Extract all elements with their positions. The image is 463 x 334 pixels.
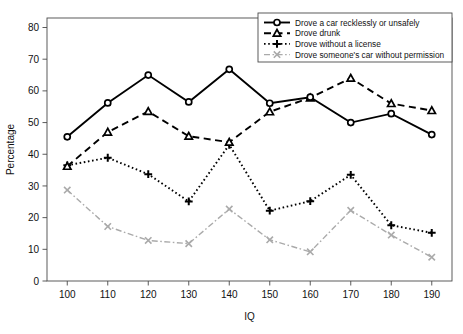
marker-circle xyxy=(429,132,435,138)
x-tick-label: 190 xyxy=(423,289,440,300)
marker-cross xyxy=(388,232,394,238)
marker-cross xyxy=(348,207,354,213)
y-tick-label: 80 xyxy=(28,22,40,33)
marker-circle xyxy=(307,94,313,100)
marker-plus xyxy=(104,154,112,162)
marker-plus xyxy=(185,198,193,206)
series-line xyxy=(67,145,432,233)
series-circle xyxy=(64,66,435,139)
y-tick-label: 40 xyxy=(28,149,40,160)
x-tick-label: 110 xyxy=(100,289,116,300)
x-axis-title: IQ xyxy=(244,311,255,322)
x-tick-label: 170 xyxy=(342,289,359,300)
marker-circle xyxy=(145,72,151,78)
marker-triangle xyxy=(145,108,152,115)
marker-triangle xyxy=(104,128,111,135)
series-line xyxy=(67,190,432,257)
legend-label: Drove a car recklessly or unsafely xyxy=(295,18,420,28)
marker-cross xyxy=(429,254,435,260)
marker-circle xyxy=(274,20,280,26)
x-tick-label: 100 xyxy=(59,289,76,300)
x-tick-label: 150 xyxy=(261,289,278,300)
chart-figure: 0102030405060708010011012013014015016017… xyxy=(0,0,463,334)
marker-circle xyxy=(226,66,232,72)
series-line xyxy=(67,78,432,166)
marker-circle xyxy=(388,111,394,117)
marker-triangle xyxy=(266,108,273,115)
marker-plus xyxy=(428,229,436,237)
marker-plus xyxy=(306,197,314,205)
marker-plus xyxy=(387,221,395,229)
marker-triangle xyxy=(185,132,192,139)
marker-cross xyxy=(64,187,70,193)
y-tick-label: 0 xyxy=(33,276,39,287)
line-chart: 0102030405060708010011012013014015016017… xyxy=(0,0,463,334)
y-tick-label: 60 xyxy=(28,85,40,96)
y-axis-title: Percentage xyxy=(5,123,16,175)
y-tick-label: 20 xyxy=(28,212,40,223)
marker-cross xyxy=(145,237,151,243)
marker-plus xyxy=(266,207,274,215)
marker-cross xyxy=(105,223,111,229)
x-tick-label: 140 xyxy=(221,289,238,300)
legend-label: Drove without a license xyxy=(295,39,381,49)
x-tick-label: 130 xyxy=(180,289,197,300)
series-cross xyxy=(64,187,435,261)
marker-circle xyxy=(105,100,111,106)
x-tick-label: 120 xyxy=(140,289,157,300)
legend-label: Drove drunk xyxy=(295,28,341,38)
x-tick-label: 180 xyxy=(383,289,400,300)
marker-circle xyxy=(267,100,273,106)
y-tick-label: 10 xyxy=(28,244,40,255)
legend: Drove a car recklessly or unsafelyDrove … xyxy=(258,13,452,62)
marker-cross xyxy=(226,206,232,212)
y-tick-label: 50 xyxy=(28,117,40,128)
series-plus xyxy=(63,141,435,237)
x-tick-label: 160 xyxy=(302,289,319,300)
marker-triangle xyxy=(347,75,354,82)
y-tick-label: 30 xyxy=(28,181,40,192)
marker-circle xyxy=(64,134,70,140)
marker-circle xyxy=(186,99,192,105)
y-tick-label: 70 xyxy=(28,54,40,65)
marker-circle xyxy=(348,120,354,126)
marker-triangle xyxy=(428,107,435,114)
legend-label: Drove someone's car without permission xyxy=(295,50,445,60)
series-triangle xyxy=(64,75,436,170)
